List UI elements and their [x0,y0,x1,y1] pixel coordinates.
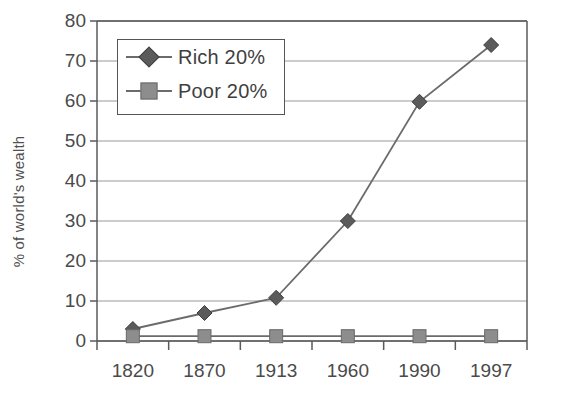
data-point-marker [197,306,212,321]
plot-area [0,0,578,403]
line-chart: % of world's wealth 01020304050607080 18… [0,0,578,403]
data-point-marker [270,330,283,343]
data-point-marker [126,330,139,343]
data-point-marker [198,330,211,343]
legend-label-rich: Rich 20% [178,46,265,69]
diamond-marker-icon [126,48,172,66]
square-marker-icon [126,82,172,100]
chart-legend: Rich 20% Poor 20% [117,39,285,115]
data-point-marker [413,330,426,343]
legend-item-rich: Rich 20% [118,40,284,74]
data-point-marker [341,330,354,343]
legend-item-poor: Poor 20% [118,74,284,108]
legend-label-poor: Poor 20% [178,80,267,103]
data-point-marker [485,330,498,343]
